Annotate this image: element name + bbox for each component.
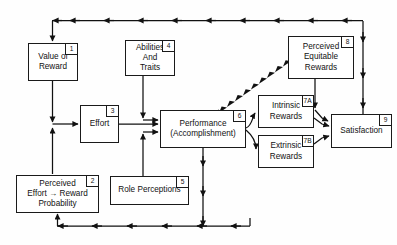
edge-performance-to-intrinsic: [246, 113, 255, 128]
node-label: Perceived Equitable Rewards: [300, 42, 342, 73]
node-satisfaction[interactable]: Satisfaction 9: [331, 114, 392, 148]
node-badge: 9: [379, 114, 391, 126]
node-label: Perceived Effort → Reward Probability: [24, 179, 90, 210]
node-badge: 7B: [302, 135, 314, 147]
diagram-canvas: Value of Reward 1 Perceived Effort → Rew…: [0, 0, 397, 245]
node-label: Satisfaction: [337, 126, 385, 136]
node-badge: 1: [65, 43, 77, 55]
node-role-perceptions[interactable]: Role Perceptions 5: [110, 176, 189, 205]
node-perceived-effort-reward-probability[interactable]: Perceived Effort → Reward Probability 2: [16, 175, 99, 213]
node-label: Extrinsic Rewards: [267, 141, 305, 162]
node-badge: 5: [176, 176, 188, 188]
node-badge: 3: [106, 105, 118, 117]
edge-extrinsic-to-satisfaction: [314, 136, 329, 144]
node-label: Intrinsic Rewards: [267, 101, 305, 122]
edge-intrinsic-to-satisfaction: [314, 118, 329, 126]
node-label: Performance (Accomplishment): [167, 119, 239, 140]
node-badge: 6: [233, 110, 245, 122]
node-effort[interactable]: Effort 3: [80, 105, 119, 143]
edge-equitable-into-satisfaction: [315, 110, 328, 121]
node-badge: 2: [86, 175, 98, 187]
node-value-of-reward[interactable]: Value of Reward 1: [28, 43, 78, 81]
node-intrinsic-rewards[interactable]: Intrinsic Rewards 7A: [258, 95, 314, 128]
node-label: Effort: [87, 119, 112, 129]
edge-performance-to-extrinsic: [246, 130, 256, 149]
node-badge: 7A: [302, 95, 314, 107]
node-perceived-equitable-rewards[interactable]: Perceived Equitable Rewards 8: [288, 36, 354, 79]
node-extrinsic-rewards[interactable]: Extrinsic Rewards 7B: [258, 135, 314, 168]
node-performance-accomplishment[interactable]: Performance (Accomplishment) 6: [160, 110, 246, 148]
node-abilities-and-traits[interactable]: Abilities And Traits 4: [125, 40, 175, 76]
node-badge: 8: [341, 36, 353, 48]
node-label: Role Perceptions: [115, 185, 183, 195]
node-badge: 4: [162, 40, 174, 52]
